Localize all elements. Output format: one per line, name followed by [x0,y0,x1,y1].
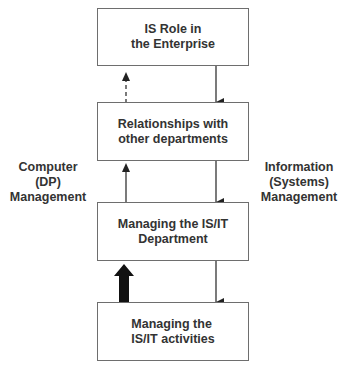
label-information-management: Information (Systems) Management [258,160,340,205]
box-relationships-line2: other departments [118,132,228,146]
arrow-up-thick [114,264,134,302]
box-is-role: IS Role inthe Enterprise [97,8,249,66]
box-relationships: Relationships withother departments [97,102,249,161]
label-right-line2: (Systems) [269,175,329,189]
box-managing-department-line1: Managing the IS/IT [118,217,228,231]
label-computer-management: Computer (DP) Management [8,160,88,205]
box-managing-department: Managing the IS/ITDepartment [97,202,249,261]
box-managing-department-line2: Department [138,232,207,246]
label-right-line3: Management [261,190,337,204]
box-relationships-line1: Relationships with [118,117,228,131]
box-managing-activities-line2: IS/IT activities [131,332,214,346]
label-left-line1: Computer [18,160,77,174]
label-left-line3: Management [10,190,86,204]
arrow-up-solid-head [122,163,130,172]
label-right-line1: Information [265,160,334,174]
box-managing-activities-line1: Managing the [131,317,212,331]
label-left-line2: (DP) [35,175,61,189]
box-is-role-line2: the Enterprise [131,37,215,51]
arrow-up-dashed-head [122,72,130,81]
box-managing-activities: Managing theIS/IT activities [97,302,249,361]
box-is-role-line1: IS Role in [145,22,202,36]
